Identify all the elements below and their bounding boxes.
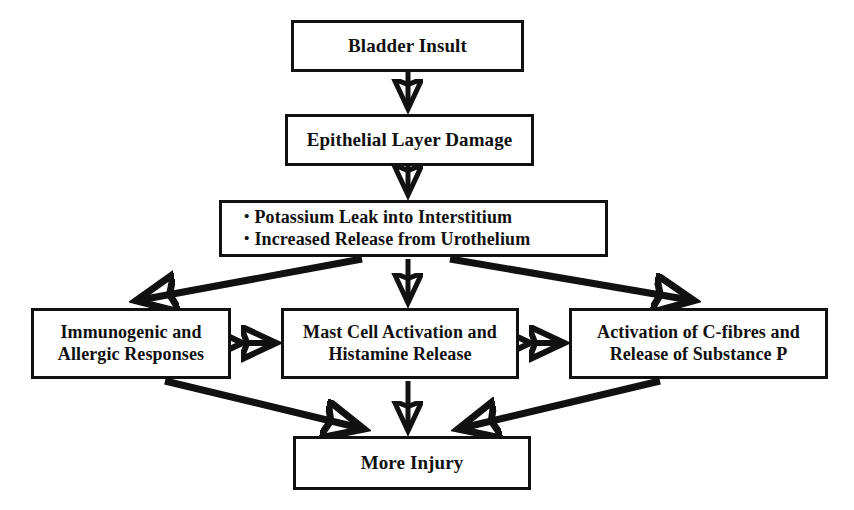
node-bladder-insult[interactable]: Bladder Insult [291, 20, 524, 72]
node-epithelial-layer-damage[interactable]: Epithelial Layer Damage [285, 114, 534, 166]
node-label: Epithelial Layer Damage [307, 129, 513, 151]
node-label-line-1: Potassium Leak into Interstitium [244, 207, 512, 228]
node-immunogenic-allergic[interactable]: Immunogenic and Allergic Responses [31, 308, 231, 379]
node-label-line-2: Increased Release from Urothelium [244, 229, 530, 250]
edge-potassium-to-c-fibres [450, 259, 690, 300]
edge-potassium-to-immunogenic [140, 259, 362, 300]
node-mast-cell-histamine[interactable]: Mast Cell Activation and Histamine Relea… [281, 308, 519, 379]
node-label-line-1: Immunogenic and [60, 322, 201, 343]
node-label-line-2: Histamine Release [328, 344, 471, 365]
node-label: More Injury [361, 452, 464, 474]
node-label: Bladder Insult [348, 35, 467, 57]
node-c-fibres-substance-p[interactable]: Activation of C-fibres and Release of Su… [569, 308, 828, 379]
flowchart-canvas: Bladder Insult Epithelial Layer Damage P… [0, 0, 854, 510]
node-label-line-2: Allergic Responses [58, 344, 204, 365]
node-label-line-1: Activation of C-fibres and [597, 322, 800, 343]
node-more-injury[interactable]: More Injury [293, 436, 531, 490]
node-label-line-2: Release of Substance P [610, 344, 788, 365]
edge-immunogenic-to-more-injury [165, 381, 360, 428]
node-potassium-leak[interactable]: Potassium Leak into Interstitium Increas… [219, 200, 608, 257]
node-label-line-1: Mast Cell Activation and [303, 322, 497, 343]
edge-c-fibres-to-more-injury [462, 381, 660, 428]
